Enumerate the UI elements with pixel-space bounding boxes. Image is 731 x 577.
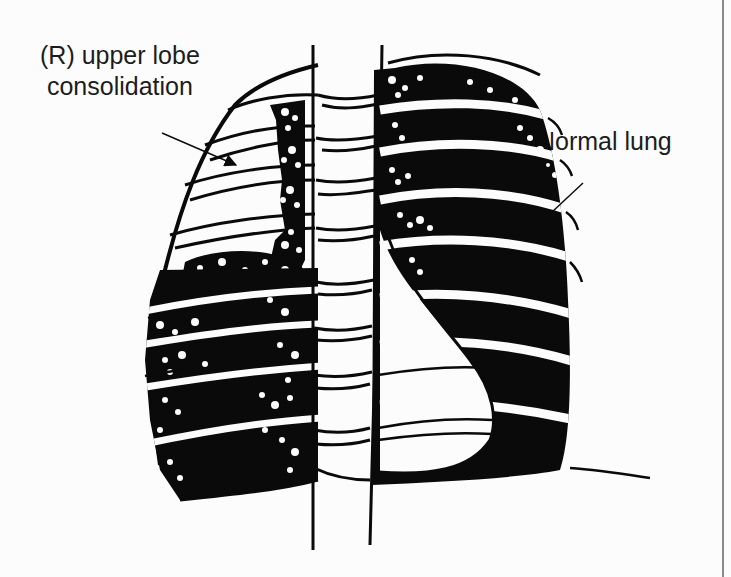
consolidation-mottling xyxy=(180,100,305,288)
left-lung xyxy=(370,55,650,490)
chest-xray-diagram xyxy=(0,0,731,577)
right-lung xyxy=(140,65,320,510)
spine xyxy=(313,45,382,550)
